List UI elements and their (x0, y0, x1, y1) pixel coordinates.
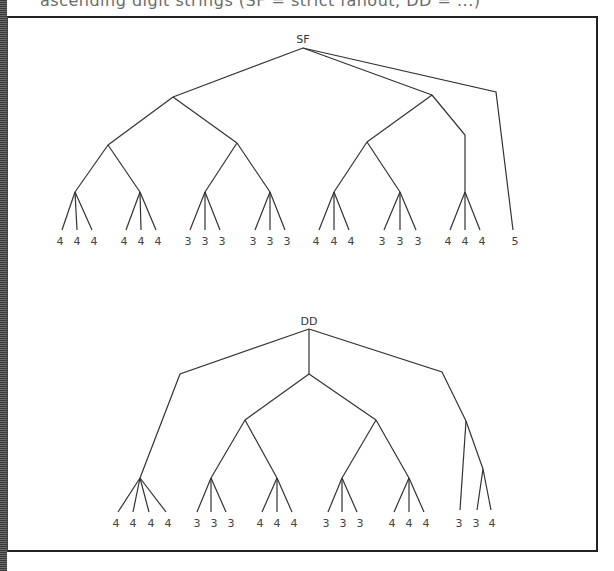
svg-text:5: 5 (512, 235, 519, 248)
sf-leaf-group-7: 4 4 4 (445, 235, 486, 248)
sf-leaf-group-5: 4 4 4 (313, 235, 355, 248)
svg-text:4: 4 (130, 517, 137, 530)
dd-leaf-group-2: 3 3 3 (194, 517, 235, 530)
sf-tree: SF 4 4 4 4 4 4 (57, 33, 519, 248)
svg-text:3: 3 (379, 235, 386, 248)
svg-text:4: 4 (313, 235, 320, 248)
svg-text:3: 3 (211, 517, 218, 530)
dd-tree: DD 4 4 4 4 3 3 3 (113, 315, 496, 530)
dd-leaf-group-4: 3 3 3 (323, 517, 364, 530)
sf-leaf-group-4: 3 3 3 (250, 235, 291, 248)
svg-text:3: 3 (473, 517, 480, 530)
svg-text:4: 4 (291, 517, 298, 530)
svg-text:4: 4 (74, 235, 81, 248)
dd-leaf-group-5: 4 4 4 (389, 517, 430, 530)
svg-text:4: 4 (348, 235, 355, 248)
svg-text:4: 4 (113, 517, 120, 530)
dd-leaf-group-1: 4 4 4 4 (113, 517, 172, 530)
svg-text:4: 4 (462, 235, 469, 248)
svg-text:3: 3 (456, 517, 463, 530)
svg-text:4: 4 (138, 235, 145, 248)
svg-text:4: 4 (489, 517, 496, 530)
dd-leaf-group-3: 4 4 4 (257, 517, 298, 530)
svg-text:4: 4 (148, 517, 155, 530)
svg-text:4: 4 (445, 235, 452, 248)
svg-text:4: 4 (155, 235, 162, 248)
sf-root-label: SF (296, 33, 309, 46)
svg-text:4: 4 (257, 517, 264, 530)
svg-text:4: 4 (165, 517, 172, 530)
svg-text:3: 3 (357, 517, 364, 530)
svg-text:3: 3 (194, 517, 201, 530)
svg-text:3: 3 (415, 235, 422, 248)
sf-leaf-group-2: 4 4 4 (121, 235, 162, 248)
svg-text:4: 4 (479, 235, 486, 248)
svg-text:4: 4 (389, 517, 396, 530)
sf-leaf-group-6: 3 3 3 (379, 235, 422, 248)
svg-text:4: 4 (406, 517, 413, 530)
sf-leaf-group-3: 3 3 3 (185, 235, 226, 248)
svg-text:3: 3 (250, 235, 257, 248)
svg-text:3: 3 (228, 517, 235, 530)
svg-text:4: 4 (331, 235, 338, 248)
svg-text:3: 3 (219, 235, 226, 248)
svg-text:4: 4 (121, 235, 128, 248)
svg-text:3: 3 (397, 235, 404, 248)
dd-root-label: DD (301, 315, 318, 328)
svg-text:4: 4 (274, 517, 281, 530)
dd-leaf-group-6: 3 3 4 (456, 517, 496, 530)
svg-text:4: 4 (91, 235, 98, 248)
svg-text:3: 3 (185, 235, 192, 248)
svg-text:3: 3 (267, 235, 274, 248)
tree-diagram: SF 4 4 4 4 4 4 (0, 0, 614, 571)
svg-text:3: 3 (323, 517, 330, 530)
svg-text:3: 3 (340, 517, 347, 530)
svg-text:3: 3 (284, 235, 291, 248)
sf-leaf-group-8: 5 (512, 235, 519, 248)
svg-text:4: 4 (423, 517, 430, 530)
svg-text:4: 4 (57, 235, 64, 248)
sf-leaf-group-1: 4 4 4 (57, 235, 98, 248)
svg-text:3: 3 (202, 235, 209, 248)
